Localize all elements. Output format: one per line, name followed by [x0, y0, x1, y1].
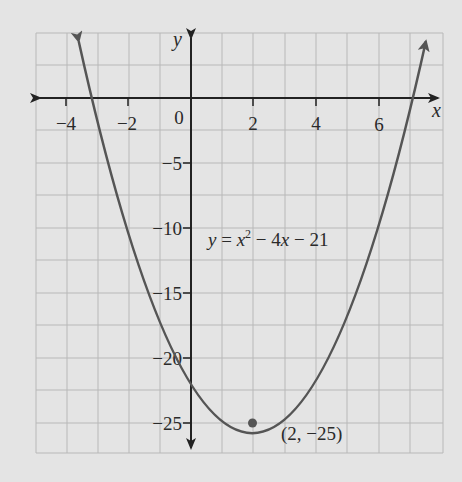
y-tick-label: −15 [152, 283, 182, 304]
x-tick-label: 2 [248, 113, 258, 134]
y-tick-label: −10 [152, 218, 182, 239]
y-axis-label: y [171, 28, 182, 51]
parabola-chart: −4 −2 0 2 4 6 −5 −10 −15 −20 −25 y x (2,… [0, 0, 462, 482]
x-tick-label: −4 [56, 113, 77, 134]
vertex-label: (2, −25) [281, 423, 342, 445]
equation-label: y = x2 − 4x − 21 [206, 227, 328, 250]
x-tick-label: −2 [117, 113, 137, 134]
x-tick-label: 6 [374, 114, 384, 135]
x-axis-label: x [431, 99, 441, 121]
origin-label: 0 [174, 107, 184, 128]
x-tick-label: 4 [311, 113, 321, 134]
vertex-point [248, 419, 257, 428]
y-tick-label: −5 [162, 153, 182, 174]
y-tick-label: −25 [152, 413, 182, 434]
